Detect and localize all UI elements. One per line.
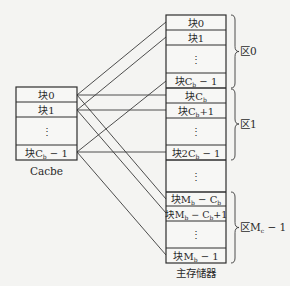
map-line-c0-m0 [77,22,166,95]
brace-region-1 [231,89,239,160]
memory-ellipsis-0: ⋮ [191,54,201,65]
memory-column: 块0 块1 ⋮ 块Cb − 1 块Cb 块Cb+1 ⋮ 块2Cb − 1 ⋮ 块… [165,15,228,279]
cache-block-0: 块0 [38,90,54,101]
memory-block-mb-minus-cb-plus-1: 块Mb − Cb+1 [165,209,228,221]
region-braces [231,15,239,263]
memory-block-1: 块1 [188,33,204,44]
mapping-lines [77,22,166,255]
memory-ellipsis-3: ⋮ [191,229,201,240]
cache-mapping-diagram: 块0 块1 ⋮ 块Cb − 1 Cacbe 块0 块1 ⋮ 块Cb − 1 块C… [0,0,290,286]
region-label-1: 区1 [240,118,257,130]
brace-region-0 [231,15,239,88]
map-line-c0-mMbCb [77,95,166,199]
memory-ellipsis-1: ⋮ [191,126,201,137]
cache-column: 块0 块1 ⋮ 块Cb − 1 Cacbe [16,87,77,177]
brace-region-last [231,192,239,263]
region-label-0: 区0 [240,45,257,57]
memory-block-cb-minus-1: 块Cb − 1 [175,76,218,88]
map-line-clast-mMb-1 [77,152,166,255]
memory-label: 主存储器 [176,267,217,279]
cache-label: Cacbe [30,165,63,177]
region-label-last: 区Mc − 1 [240,221,286,234]
region-labels: 区0 区1 区Mc − 1 [240,45,286,234]
map-line-clast-mCb-1 [77,81,166,152]
memory-block-0: 块0 [188,18,204,29]
memory-block-mb-minus-cb: 块Mb − Cb [171,194,221,206]
cache-ellipsis: ⋮ [42,126,52,137]
map-line-c1-mMbCb1 [77,110,166,213]
cache-block-last: 块Cb − 1 [25,148,68,160]
cache-block-1: 块1 [38,105,54,116]
map-line-c1-m1 [77,37,166,110]
memory-outline [166,15,226,263]
memory-ellipsis-2: ⋮ [191,171,201,182]
